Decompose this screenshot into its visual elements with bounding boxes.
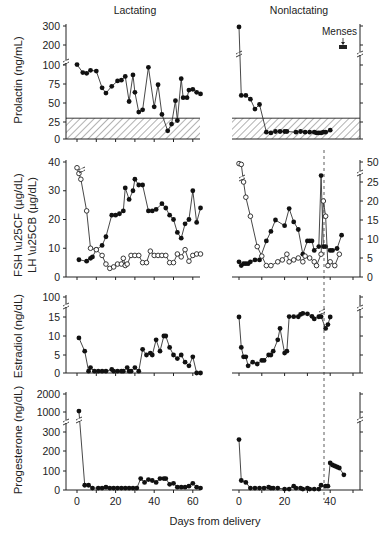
y-tick-label: 300	[42, 20, 60, 32]
estradiol-marker	[179, 353, 184, 358]
x-tick-label: 40	[148, 495, 160, 507]
estradiol-marker	[187, 363, 192, 368]
progesterone-marker	[253, 486, 258, 491]
prolactin-marker	[248, 97, 253, 102]
fsh-marker	[273, 218, 278, 223]
y-tick-label: 100	[42, 291, 60, 303]
y-tick-label: 10	[367, 233, 379, 245]
progesterone-marker	[171, 481, 176, 486]
lh-marker	[337, 252, 342, 257]
prolactin-marker	[323, 130, 328, 135]
lh-marker	[291, 258, 296, 263]
estradiol-marker	[278, 326, 283, 331]
progesterone-marker	[237, 437, 242, 442]
lh-marker	[328, 260, 333, 265]
estradiol-marker	[198, 371, 203, 376]
estradiol-marker	[287, 314, 292, 319]
progesterone-marker	[198, 486, 203, 491]
prolactin-marker	[156, 82, 161, 87]
lh-marker	[144, 260, 149, 265]
ylabel-fsh: FSH	[12, 254, 24, 277]
estradiol-marker	[129, 369, 134, 374]
panel-title-nonlactating: Nonlactating	[270, 4, 329, 16]
estradiol-marker	[167, 345, 172, 350]
prolactin-marker	[127, 99, 132, 104]
prolactin-marker	[169, 122, 174, 127]
fsh-marker	[319, 173, 324, 178]
ylabel-lh-unit: (µg/dL)	[26, 177, 38, 214]
fsh-marker	[287, 206, 292, 211]
panel-estradiol-lactating: 051015100	[42, 291, 202, 379]
prolactin-marker	[298, 129, 303, 134]
prolactin-marker	[185, 95, 190, 100]
ylabel-gonadotropins: FSH \u25CF (µg/dL) LH \u25CB (µg/dL)	[12, 173, 38, 277]
x-tick-label: 0	[74, 495, 80, 507]
normal-range-hatch	[66, 118, 200, 139]
y-tick-label: 200	[42, 39, 60, 51]
lh-marker	[244, 195, 249, 200]
lh-marker	[280, 258, 285, 263]
prolactin-marker	[269, 130, 274, 135]
lh-marker	[198, 252, 203, 257]
fsh-marker	[312, 248, 317, 253]
fsh-marker	[310, 239, 315, 244]
panel-progesterone-lactating: 0100200300100020000204060	[37, 388, 203, 508]
progesterone-marker	[319, 483, 324, 488]
fsh-marker	[330, 248, 335, 253]
normal-range-hatch	[232, 118, 360, 139]
lh-marker	[332, 263, 337, 268]
lh-marker	[104, 262, 109, 267]
estradiol-marker	[183, 360, 188, 365]
lh-marker	[314, 263, 319, 268]
lh-marker	[241, 180, 246, 185]
ylabel-progesterone: Progesterone (ng/dL)	[12, 385, 24, 494]
y-tick-label: 0	[54, 133, 60, 145]
lh-marker	[187, 259, 192, 264]
fsh-marker	[90, 254, 95, 259]
lh-marker	[179, 255, 184, 260]
prolactin-marker	[160, 112, 165, 117]
fsh-marker	[84, 259, 89, 264]
estradiol-marker	[271, 349, 276, 354]
prolactin-marker	[84, 71, 89, 76]
estradiol-marker	[82, 349, 87, 354]
lh-marker	[239, 162, 244, 167]
lh-marker	[303, 254, 308, 259]
fsh-marker	[167, 213, 172, 218]
prolactin-marker	[75, 62, 80, 67]
estradiol-marker	[171, 353, 176, 358]
fsh-marker	[282, 223, 287, 228]
y-tick-label: 0	[54, 271, 60, 283]
lh-marker	[84, 209, 89, 214]
estradiol-marker	[326, 322, 331, 327]
menses-label: Menses	[322, 26, 357, 37]
svg-text:LH \u25CB (µg/dL): LH \u25CB (µg/dL)	[26, 177, 38, 273]
estradiol-marker	[239, 345, 244, 350]
y-tick-label: 15	[48, 311, 60, 323]
progesterone-marker	[307, 487, 312, 492]
progesterone-marker	[275, 486, 280, 491]
panel-estradiol-nonlactating	[232, 295, 363, 376]
plot-area: 0255075100200300010203040051015202550051…	[37, 20, 379, 508]
prolactin-marker	[239, 93, 244, 98]
prolactin-marker	[165, 128, 170, 133]
y-tick-label: 5	[367, 252, 373, 264]
progesterone-marker	[154, 480, 159, 485]
progesterone-marker	[262, 486, 267, 491]
progesterone-marker	[312, 487, 317, 492]
lh-marker	[171, 260, 176, 265]
y-tick-label: 0	[54, 484, 60, 496]
prolactin-line	[239, 27, 330, 133]
progesterone-marker	[134, 486, 139, 491]
fsh-marker	[104, 234, 109, 239]
estradiol-marker	[291, 314, 296, 319]
prolactin-marker	[243, 93, 248, 98]
estradiol-marker	[250, 360, 255, 365]
prolactin-marker	[237, 25, 242, 30]
lh-marker	[148, 249, 153, 254]
prolactin-marker	[190, 87, 195, 92]
y-tick-label: 100	[42, 465, 60, 477]
prolactin-marker	[175, 118, 180, 123]
estradiol-marker	[300, 311, 305, 316]
progesterone-marker	[287, 487, 292, 492]
